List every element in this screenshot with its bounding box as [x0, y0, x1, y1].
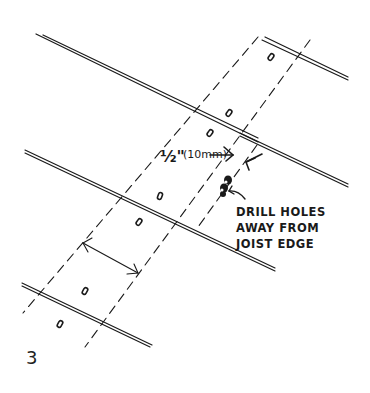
joist-middle-right: [240, 133, 348, 187]
note-line-3: JOIST EDGE: [235, 237, 314, 251]
dashed-run-lines: [23, 37, 310, 347]
dimension-fraction: ½": [160, 147, 185, 166]
joist-diagram: ½" (10mm) DRILL HOLES AWAY FROM JOIST ED…: [0, 0, 370, 393]
joist-top-right: [262, 37, 348, 80]
note-line-1: DRILL HOLES: [236, 205, 326, 219]
figure-number: 3: [26, 347, 37, 368]
note-arrow: [229, 186, 245, 199]
joist-top: [36, 34, 258, 142]
note-line-2: AWAY FROM: [236, 221, 319, 235]
dimension-metric: (10mm): [183, 148, 227, 161]
hole-cluster-icon: [220, 176, 232, 198]
width-arrow: [83, 238, 138, 274]
